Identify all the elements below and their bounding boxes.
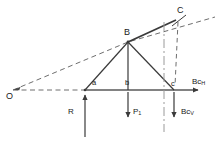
label-force-bc-horizontal: BcH	[192, 78, 205, 87]
ray-O-to-C	[13, 17, 215, 90]
diagram-svg	[0, 0, 222, 142]
label-bc-v-sub: V	[190, 110, 194, 116]
label-apex-B: B	[124, 28, 130, 37]
label-bc-h-sub: H	[201, 80, 205, 86]
label-force-reaction: R	[68, 108, 74, 116]
label-node-c: c	[171, 80, 175, 88]
origin-arrowhead-icon	[13, 87, 21, 90]
label-force-bc-vertical: BcV	[181, 108, 194, 117]
label-force-load-sub: 1	[138, 110, 141, 116]
label-force-load: P1	[133, 108, 141, 117]
label-point-C: C	[177, 6, 184, 15]
member-B-c	[128, 42, 174, 90]
drop-line-C-to-c	[175, 22, 178, 86]
label-node-a: a	[92, 79, 96, 87]
node-marker-a	[84, 89, 87, 92]
force-diagram-canvas: O B C a b c R P1 BcH BcV	[0, 0, 222, 142]
label-bc-v-main: Bc	[181, 107, 190, 116]
node-marker-B	[127, 41, 130, 44]
label-node-b: b	[125, 79, 129, 87]
label-origin: O	[6, 92, 13, 101]
member-B-C	[128, 20, 176, 42]
label-bc-h-main: Bc	[192, 77, 201, 86]
